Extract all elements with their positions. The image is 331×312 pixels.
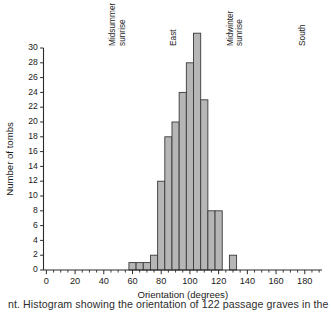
- figure-caption-strip: nt. Histogram showing the orientation of…: [0, 300, 331, 312]
- x-axis-tick-label: 100: [182, 276, 197, 286]
- y-axis-tick-label: 16: [28, 146, 38, 156]
- annotation-line: sunrise: [234, 19, 244, 46]
- y-axis-tick-label: 18: [28, 131, 38, 141]
- annotation-midwinter-sunrise: Midwintersunrise: [225, 10, 244, 46]
- y-axis-tick-label: 26: [28, 72, 38, 82]
- y-axis-tick-label: 12: [28, 175, 38, 185]
- y-axis-tick-label: 20: [28, 116, 38, 126]
- x-axis-tick-label: 20: [70, 276, 80, 286]
- histogram-bar: [186, 63, 193, 270]
- y-axis-tick-label: 22: [28, 101, 38, 111]
- x-axis-tick-label: 60: [127, 276, 137, 286]
- histogram-bar: [179, 92, 186, 270]
- y-axis-tick-label: 4: [33, 235, 38, 245]
- y-axis-tick-label: 28: [28, 57, 38, 67]
- histogram-bar: [165, 137, 172, 270]
- histogram-bar: [208, 211, 215, 270]
- histogram-bar: [229, 255, 236, 270]
- x-axis-tick-label: 160: [268, 276, 283, 286]
- x-axis-title: Orientation (degrees): [137, 289, 228, 300]
- y-axis-tick-label: 8: [33, 205, 38, 215]
- histogram-bar: [143, 263, 150, 270]
- y-axis-tick-label: 14: [28, 161, 38, 171]
- x-axis-tick-label: 80: [156, 276, 166, 286]
- annotation-line: sunrise: [117, 19, 127, 46]
- x-axis-tick-label: 180: [297, 276, 312, 286]
- y-axis-tick-label: 6: [33, 220, 38, 230]
- x-axis-tick-label: 140: [240, 276, 255, 286]
- histogram-bar: [129, 263, 136, 270]
- histogram-bar: [150, 255, 157, 270]
- y-axis-title: Number of tombs: [4, 122, 15, 196]
- histogram-figure: 0246810121416182022242628300204060801001…: [0, 0, 331, 312]
- annotation-south: South: [297, 24, 307, 46]
- y-axis-tick-label: 30: [28, 42, 38, 52]
- histogram-bar: [172, 122, 179, 270]
- y-axis-tick-label: 0: [33, 264, 38, 274]
- annotation-line: East: [168, 29, 178, 46]
- histogram-bar: [194, 33, 201, 270]
- x-axis-tick-label: 40: [99, 276, 109, 286]
- histogram-plot: 0246810121416182022242628300204060801001…: [0, 0, 331, 312]
- annotation-line: South: [297, 24, 307, 46]
- x-axis-tick-label: 0: [44, 276, 49, 286]
- annotation-east: East: [168, 29, 178, 46]
- annotation-midsummer-sunrise: Midsummersunrise: [107, 2, 126, 46]
- figure-caption-text: nt. Histogram showing the orientation of…: [8, 300, 328, 310]
- histogram-bar: [136, 263, 143, 270]
- histogram-bar: [158, 181, 165, 270]
- histogram-bar: [215, 211, 222, 270]
- y-axis-tick-label: 2: [33, 249, 38, 259]
- histogram-bar: [201, 100, 208, 270]
- y-axis-tick-label: 24: [28, 87, 38, 97]
- x-axis-tick-label: 120: [211, 276, 226, 286]
- y-axis-tick-label: 10: [28, 190, 38, 200]
